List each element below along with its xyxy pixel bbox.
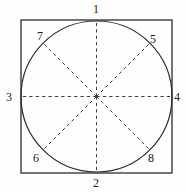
radius-down-right (97, 97, 150, 150)
label-3: 3 (6, 91, 12, 103)
figure-container: 12345678 (0, 0, 186, 192)
label-1: 1 (93, 3, 99, 15)
radius-up-right (97, 43, 150, 96)
label-2: 2 (93, 177, 99, 189)
label-7: 7 (37, 30, 43, 42)
radius-down-left (43, 97, 96, 150)
label-8: 8 (148, 152, 154, 164)
label-6: 6 (33, 152, 39, 164)
radius-up-left (43, 43, 96, 96)
label-4: 4 (174, 91, 180, 103)
geometry-canvas (0, 0, 186, 192)
label-5: 5 (150, 33, 156, 45)
center-point (95, 95, 97, 97)
